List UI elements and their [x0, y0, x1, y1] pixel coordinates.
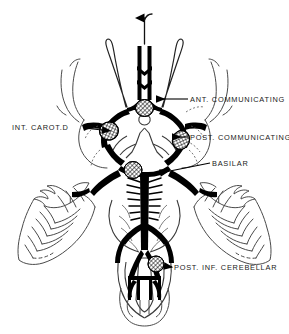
middle-cerebral-right [185, 123, 207, 131]
label-post-inf-cerebellar: POST. INF. CEREBELLAR [174, 263, 277, 272]
aica-left [121, 224, 143, 245]
superior-cerebellar-left [90, 170, 121, 196]
spinal-cord-outline [120, 288, 170, 326]
marker-pica-xhatch [148, 256, 164, 272]
marker-carotid-left-xhatch [97, 119, 121, 142]
basilar-artery [140, 172, 149, 250]
vertebral-artery-left [128, 250, 144, 280]
label-ant-communicating: ANT. COMMUNICATING [190, 95, 285, 104]
superior-flow-arrow [145, 14, 153, 44]
aica-right [146, 224, 168, 245]
marker-carotid-right-xhatch [170, 128, 192, 152]
anatomical-figure: ANT. COMMUNICATING POST. COMMUNICATING B… [0, 0, 289, 334]
label-basilar: BASILAR [212, 159, 248, 168]
marker-ant-comm-xhatch [136, 100, 154, 117]
marker-basilar-xhatch [124, 162, 142, 179]
label-post-communicating: POST. COMMUNICATING [190, 133, 289, 142]
superior-cerebellar-right [168, 170, 199, 196]
arterial-tree [72, 46, 217, 300]
label-int-carot-d: INT. CAROT.D [12, 123, 69, 132]
